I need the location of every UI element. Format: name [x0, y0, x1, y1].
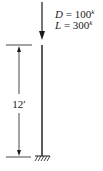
live-load-label: L = 300k [54, 19, 93, 31]
dimension-label: 12′ [12, 98, 25, 110]
fixed-support-icon [35, 156, 50, 161]
column-diagram: 12′ D = 100k L = 300k [0, 0, 103, 171]
load-arrow [39, 2, 45, 40]
